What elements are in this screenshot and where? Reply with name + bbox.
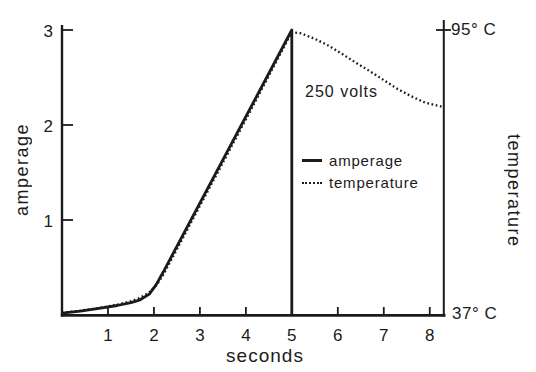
y-tick-label: 3 bbox=[44, 22, 53, 41]
legend-item-temperature: temperature bbox=[302, 174, 419, 191]
right-axis-title: temperature bbox=[496, 98, 530, 283]
series-amperage bbox=[62, 30, 292, 315]
dotted-line-sample bbox=[302, 182, 322, 184]
legend-label: temperature bbox=[329, 174, 419, 191]
x-tick-label: 2 bbox=[149, 326, 158, 345]
x-tick-label: 5 bbox=[287, 326, 296, 345]
x-tick-label: 3 bbox=[195, 326, 204, 345]
solid-line-sample bbox=[302, 159, 322, 162]
x-axis-title: seconds bbox=[218, 345, 312, 367]
legend-label: amperage bbox=[329, 152, 403, 169]
legend-item-amperage: amperage bbox=[302, 152, 419, 169]
x-tick-label: 6 bbox=[333, 326, 342, 345]
x-tick-label: 7 bbox=[379, 326, 388, 345]
x-tick-label: 1 bbox=[103, 326, 112, 345]
legend: amperage temperature bbox=[302, 152, 419, 191]
y-tick-label: 1 bbox=[44, 212, 53, 231]
x-tick-label: 8 bbox=[425, 326, 434, 345]
right-axis-bottom-label: 37° C bbox=[452, 304, 497, 324]
y-tick-label: 2 bbox=[44, 117, 53, 136]
right-axis-top-label: 95° C bbox=[451, 20, 496, 40]
x-tick-label: 4 bbox=[241, 326, 250, 345]
voltage-annotation: 250 volts bbox=[305, 83, 378, 101]
left-axis-title: amperage bbox=[4, 104, 40, 234]
